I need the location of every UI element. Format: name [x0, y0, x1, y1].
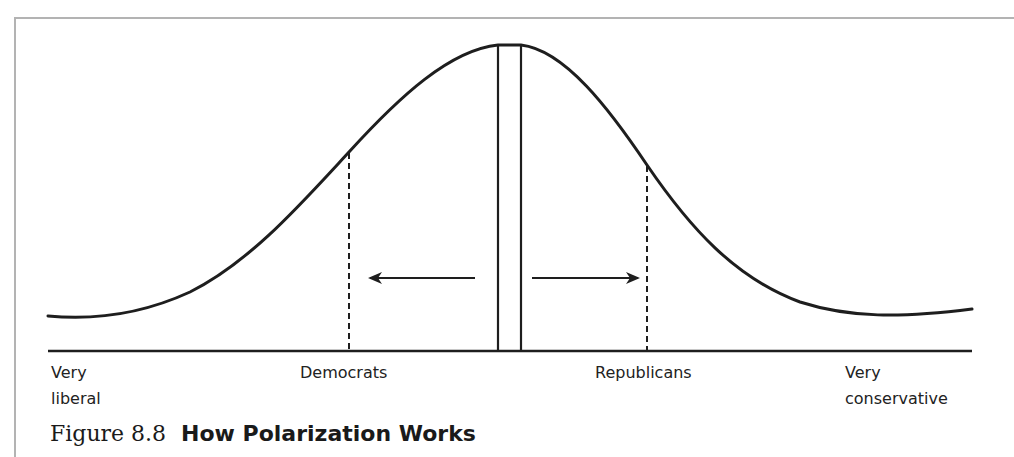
- label-very-conservative: Very conservative: [845, 360, 948, 412]
- figure-title: How Polarization Works: [181, 421, 476, 446]
- figure-number: Figure 8.8: [50, 421, 166, 446]
- figure-caption: Figure 8.8 How Polarization Works: [50, 420, 476, 448]
- label-democrats: Democrats: [300, 360, 387, 386]
- label-very-liberal: Very liberal: [51, 360, 101, 412]
- label-republicans: Republicans: [595, 360, 692, 386]
- distribution-curve: [48, 45, 972, 317]
